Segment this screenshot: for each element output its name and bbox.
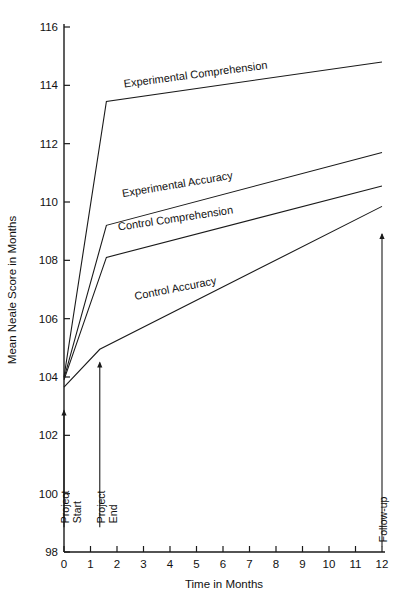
y-tick-label: 100: [39, 488, 58, 500]
x-tick-label: 7: [246, 558, 252, 570]
annotation-2: ProjectEnd: [95, 361, 119, 527]
x-tick-label: 8: [273, 558, 279, 570]
annotation-label-line2: End: [107, 504, 119, 523]
annotation-label-line1: Follow-up: [377, 496, 389, 542]
annotation-label-line2: Start: [71, 501, 83, 523]
y-tick-label: 106: [39, 313, 58, 325]
series-line-2: [64, 152, 382, 378]
y-tick-label: 110: [40, 196, 58, 208]
x-tick-label: 1: [87, 558, 93, 570]
chart-container: 98100102104106108110112114116 Mean Neale…: [0, 0, 395, 597]
annotation-label-line1: Project: [59, 490, 71, 523]
series-line-4: [64, 206, 382, 387]
y-tick-label: 98: [45, 546, 58, 558]
y-axis-group: 98100102104106108110112114116 Mean Neale…: [6, 21, 70, 558]
x-tick-label: 12: [376, 558, 389, 570]
x-tick-label: 4: [167, 558, 174, 570]
data-series-group: [64, 62, 382, 387]
y-tick-label: 102: [39, 429, 58, 441]
x-tick-label: 5: [193, 558, 199, 570]
y-tick-label: 112: [40, 138, 58, 150]
series-label-group: Experimental ComprehensionExperimental A…: [117, 59, 268, 302]
annotation-1: ProjectStart: [59, 410, 83, 528]
annotation-group: ProjectStartProjectEndFollow-up: [59, 233, 389, 546]
y-tick-label: 104: [39, 371, 59, 383]
y-tick-label: 108: [39, 254, 58, 266]
x-tick-label: 3: [140, 558, 146, 570]
series-label-2: Experimental Accuracy: [121, 169, 234, 199]
x-tick-label: 0: [61, 558, 67, 570]
series-label-3: Control Comprehension: [117, 204, 234, 233]
y-tick-label: 116: [40, 21, 58, 33]
series-line-1: [64, 62, 382, 377]
x-tick-label: 10: [323, 558, 336, 570]
x-axis-group: 0123456789101112 Time in Months: [61, 546, 389, 590]
line-chart-svg: 98100102104106108110112114116 Mean Neale…: [0, 0, 395, 597]
x-tick-label: 6: [220, 558, 226, 570]
x-axis-title: Time in Months: [185, 578, 263, 590]
annotation-3: Follow-up: [377, 233, 389, 546]
annotation-label-line1: Project: [95, 490, 107, 523]
series-label-4: Control Accuracy: [133, 274, 217, 302]
y-axis-ticks: 98100102104106108110112114116: [39, 21, 70, 558]
y-tick-label: 114: [40, 79, 59, 91]
x-axis-ticks: 0123456789101112: [61, 546, 389, 570]
annotation-arrow-head: [61, 410, 66, 416]
y-axis-title: Mean Neale Score in Months: [6, 216, 18, 365]
x-tick-label: 9: [299, 558, 305, 570]
annotation-arrow-head: [97, 361, 102, 367]
x-tick-label: 2: [114, 558, 120, 570]
x-tick-label: 11: [350, 558, 362, 570]
series-label-1: Experimental Comprehension: [123, 59, 268, 90]
annotation-arrow-head: [379, 233, 384, 239]
